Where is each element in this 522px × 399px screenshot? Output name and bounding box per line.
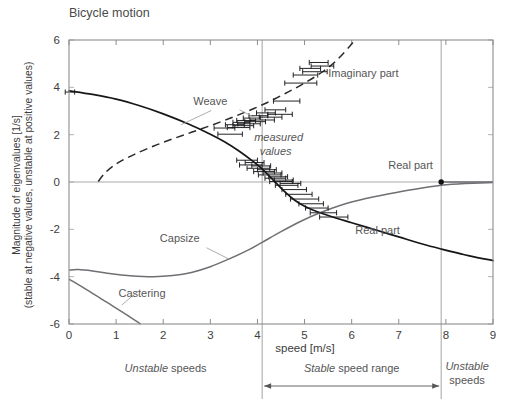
x-tick-label: 8 [443, 329, 449, 341]
measured-values-label: measured [254, 131, 304, 143]
x-axis-label: speed [m/s] [275, 342, 334, 354]
weave-label: Weave [193, 95, 227, 107]
x-tick-label: 4 [254, 329, 261, 341]
real-part-label-right: Real part [388, 159, 433, 171]
x-tick-label: 1 [113, 329, 119, 341]
eigenvalue-plot-svg: Bicycle motion Magnitude of eigenvalues … [0, 0, 522, 399]
imaginary-part-label: Imaginary part [328, 67, 398, 79]
zero-crossing-dot [438, 179, 443, 184]
x-tick-label: 2 [160, 329, 166, 341]
y-axis-label-line1: Magnitude of eigenvalues [1/s] [11, 115, 22, 255]
y-tick-label: -4 [50, 271, 61, 283]
stable-speed-range: Stable speed range [304, 362, 399, 374]
unstable-speeds-right-line2: speeds [449, 374, 485, 386]
castering-label: Castering [118, 287, 165, 299]
real-part-label-lower: Real part [355, 224, 400, 236]
y-tick-label: -2 [50, 223, 60, 235]
x-tick-label: 7 [396, 329, 402, 341]
y-tick-label: 4 [54, 81, 61, 93]
x-tick-label: 6 [348, 329, 354, 341]
x-tick-label: 5 [301, 329, 307, 341]
measured-values-label-line2: values [260, 145, 292, 157]
y-axis-label-line2: (stable at negative values, unstable at … [23, 62, 34, 309]
bicycle-motion-figure: Bicycle motion Magnitude of eigenvalues … [0, 0, 522, 399]
x-tick-label: 3 [207, 329, 213, 341]
x-tick-label: 0 [66, 329, 72, 341]
capsize-label: Capsize [160, 232, 200, 244]
y-tick-label: 6 [54, 34, 60, 46]
y-tick-label: -6 [50, 318, 60, 330]
x-tick-label: 9 [490, 329, 496, 341]
unstable-speeds-left: Unstable speeds [125, 362, 207, 374]
y-tick-label: 0 [54, 176, 60, 188]
y-tick-label: 2 [54, 129, 60, 141]
page-title: Bicycle motion [69, 6, 150, 20]
unstable-speeds-right: Unstable [445, 360, 488, 372]
